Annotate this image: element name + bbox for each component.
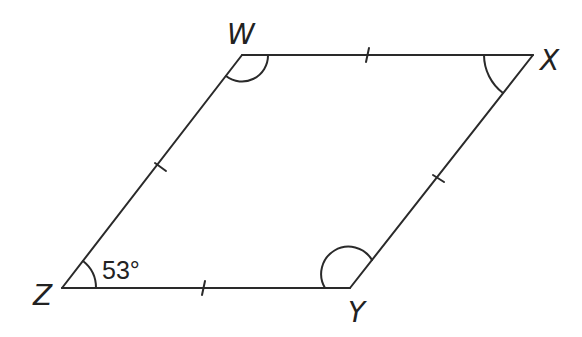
angle-arc-y: [321, 247, 372, 288]
rhombus-diagram: W X Y Z 53°: [0, 0, 582, 337]
vertex-label-w: W: [227, 18, 256, 51]
side-zw: [62, 55, 242, 288]
vertex-label-y: Y: [348, 296, 367, 329]
vertex-label-x: X: [538, 44, 560, 77]
vertex-label-z: Z: [32, 279, 53, 312]
angle-arc-x: [484, 55, 503, 93]
angle-z-measure: 53°: [102, 256, 140, 284]
angle-arc-z: [83, 261, 96, 288]
side-xy: [350, 55, 533, 288]
